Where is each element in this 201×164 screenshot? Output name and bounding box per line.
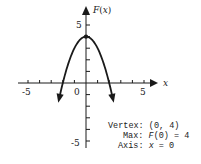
x-axis [18,79,158,87]
annotation-block: Vertex: (0, 4) Max: F(0) = 4 Axis: x = 0 [108,121,189,151]
vertex-point [84,34,88,38]
x-tick-label-0: 0 [74,87,80,97]
x-axis-arrow-icon [150,79,158,87]
y-tick-label-neg5: -5 [71,138,80,148]
y-tick-label-5: 5 [76,20,82,30]
annotation-max: Max: F(0) = 4 [123,131,189,141]
annotation-vertex: Vertex: (0, 4) [108,121,179,131]
x-tick-label-neg5: -5 [22,87,31,97]
curve-arrow-right-icon [108,93,115,103]
y-axis-label: F(x) [92,5,111,15]
curve-arrow-left-icon [57,93,64,103]
x-axis-label: x [163,78,168,88]
y-axis [82,6,90,148]
x-tick-label-5: 5 [140,87,146,97]
annotation-axis: Axis: x = 0 [118,141,174,151]
parabola-chart: F(x) x -5 0 5 5 -5 Vertex: (0, 4) Max: F… [0,0,201,164]
y-axis-arrow-icon [82,6,90,15]
